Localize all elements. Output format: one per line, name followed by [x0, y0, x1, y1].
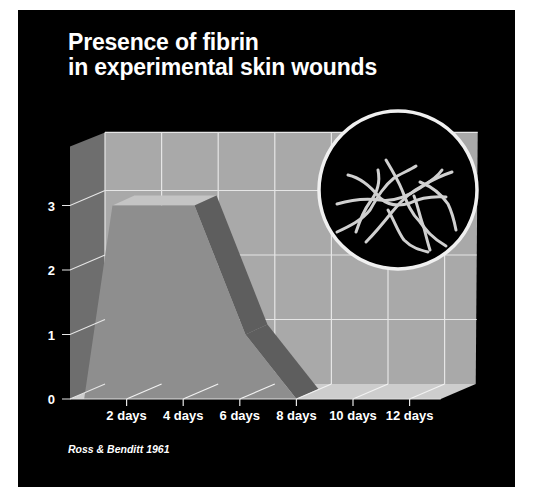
chart-plot: 0123 2 days4 days6 days8 days10 days12 d…: [0, 0, 538, 497]
source-citation: Ross & Benditt 1961: [68, 443, 170, 455]
y-tick-label: 2: [48, 263, 55, 278]
x-tick-label: 6 days: [220, 408, 260, 423]
y-tick-label: 1: [48, 328, 55, 343]
y-tick-label: 0: [48, 392, 55, 407]
fibrin-inset-icon: [319, 111, 477, 269]
inset-circle: [319, 111, 477, 269]
x-tick-label: 10 days: [329, 408, 377, 423]
x-tick-label: 12 days: [386, 408, 434, 423]
x-tick-label: 2 days: [106, 408, 146, 423]
x-tick-label: 4 days: [163, 408, 203, 423]
y-tick-label: 3: [48, 199, 55, 214]
x-tick-label: 8 days: [276, 408, 316, 423]
